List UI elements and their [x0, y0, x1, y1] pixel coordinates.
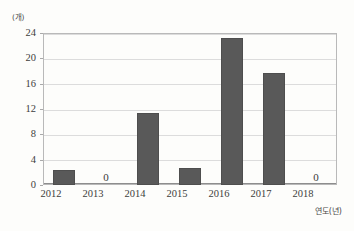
x-axis-tick-2013: 2013 — [73, 188, 113, 199]
bar-chart: (개) 24 20 16 12 8 4 0 0 — [0, 0, 354, 231]
bar-2015 — [179, 168, 201, 185]
x-axis-tick-2016: 2016 — [199, 188, 239, 199]
bar-2016 — [221, 38, 243, 185]
bar-group-2012 — [53, 33, 75, 185]
y-axis-tick-4: 4 — [8, 154, 36, 165]
x-axis-tick-2012: 2012 — [31, 188, 71, 199]
bar-2014 — [137, 113, 159, 185]
x-axis-tick-2017: 2017 — [241, 188, 281, 199]
bar-group-2016 — [221, 33, 243, 185]
bar-2017 — [263, 73, 285, 185]
x-axis-tick-2018: 2018 — [283, 188, 323, 199]
bar-2012 — [53, 170, 75, 185]
bar-group-2017 — [263, 33, 285, 185]
bar-group-2015 — [179, 33, 201, 185]
y-axis-tick-8: 8 — [8, 128, 36, 139]
bar-group-2018: 0 — [305, 33, 327, 185]
bar-group-2013: 0 — [95, 33, 117, 185]
x-axis-tick-2015: 2015 — [157, 188, 197, 199]
bar-value-label-2013: 0 — [103, 172, 109, 185]
y-axis-tick-20: 20 — [8, 52, 36, 63]
ytickmark-0 — [40, 185, 43, 186]
bar-group-2014 — [137, 33, 159, 185]
bar-value-label-2018: 0 — [313, 172, 319, 185]
x-axis-tick-2014: 2014 — [115, 188, 155, 199]
y-axis-unit-label: (개) — [12, 11, 24, 22]
y-axis-tick-24: 24 — [8, 27, 36, 38]
bars-layer: 0 0 — [43, 33, 337, 185]
y-axis-tick-16: 16 — [8, 78, 36, 89]
y-axis-tick-12: 12 — [8, 103, 36, 114]
x-axis-title: 연도(년) — [315, 205, 342, 216]
